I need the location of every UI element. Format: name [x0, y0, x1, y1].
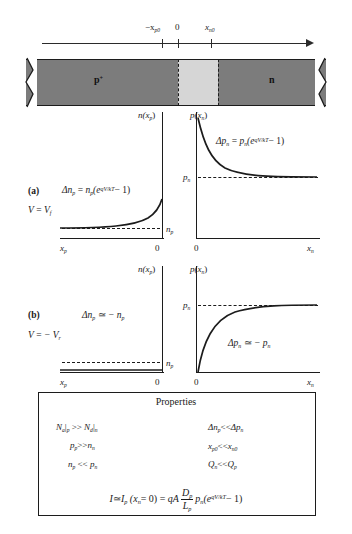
panel-a-right-level-label: pn [183, 172, 190, 183]
axis-label-xp0-text: −x [145, 22, 155, 32]
panel-b-left-eq-lhs: Δn [82, 310, 92, 320]
axis-label-xp0-sub: p0 [155, 27, 161, 33]
panel-b-left-x-label-sub: p [64, 382, 67, 388]
axis-label-xn0: xn0 [205, 22, 215, 33]
current-eq-frac-den: Lp [181, 500, 193, 512]
panel-a-left-eq-end: − 1) [115, 185, 131, 195]
current-eq-exp: qV/kT [211, 493, 226, 500]
position-axis-line [42, 43, 310, 44]
panel-a-right-x-axis [196, 238, 320, 239]
panel-a-right-eq-end: − 1) [269, 136, 285, 146]
panel-b-left-level-label: np [166, 358, 173, 369]
panel-b-right-origin-label: 0 [194, 377, 199, 387]
property-left-1-b-bar-sub: n [95, 427, 98, 433]
property-right-3: Qn<<Qp [208, 459, 237, 470]
bar-outline [26, 59, 326, 106]
property-right-1-b: Δp [231, 422, 241, 432]
axis-label-xn0-sub: n0 [209, 27, 215, 33]
panel-b-bias-sub: r [59, 335, 61, 341]
panel-b-right-axis-title: p(xn) [190, 264, 207, 275]
panel-a-bias-v: V [28, 205, 34, 215]
panel-b-right-eq-rhs-sub: n [268, 343, 271, 349]
panel-b-right-axis-title-close: ) [204, 264, 207, 274]
properties-title: Properties [0, 396, 352, 407]
current-eq-arg-open: (x [130, 493, 138, 504]
property-right-3-b-sub: p [234, 464, 237, 470]
panel-a-right-x-label-sub: n [311, 248, 314, 254]
current-eq-fraction: DpLp [181, 487, 193, 512]
panel-a-left-axis-title: n(xp) [138, 110, 155, 121]
property-left-2: pp>>nn [70, 440, 95, 451]
panel-b-left-curve [60, 362, 164, 374]
current-eq-ip-sub: p [124, 498, 127, 505]
axis-tick-xp0 [162, 39, 163, 48]
panel-a-right-level-sub: n [188, 177, 191, 183]
current-eq-tail-end: − 1) [226, 493, 242, 504]
panel-a-left-level-sub: p [171, 229, 174, 235]
panel-b-left-origin-label: 0 [155, 377, 160, 387]
panel-b-left-axis-title: n(xp) [138, 264, 155, 275]
panel-a-right-eq-exp: qV/kT [254, 137, 268, 143]
panel-b-left-axis-title-text: n(x [138, 264, 150, 274]
panel-b-left-eq-rhs: − n [108, 310, 122, 320]
panel-a-left-x-label-sub: p [64, 248, 67, 254]
bar-right-jagged-edge [315, 58, 328, 107]
panel-a-bias-sub: f [50, 210, 52, 216]
panel-a-left-eq-lhs-sub: p [72, 190, 75, 196]
panel-b-bias-eq: = [36, 330, 41, 340]
panel-b-left-eq-rhs-sub: p [122, 315, 125, 321]
property-left-1: Na|p >> Nd|n [56, 422, 98, 433]
property-left-3-a-sub: p [73, 464, 76, 470]
property-right-2-b-sub: n0 [232, 446, 238, 452]
position-axis-arrow [306, 39, 314, 47]
property-right-1-b-sub: n [241, 427, 244, 433]
current-eq-equals: = [160, 493, 166, 504]
axis-label-zero: 0 [175, 22, 180, 32]
panel-b-right-eq-rel: ≃ [244, 338, 252, 348]
bar-left-jagged-edge [25, 58, 37, 107]
panel-a-left-axis-title-text: n(x [138, 110, 150, 120]
property-left-3-b-sub: n [94, 464, 97, 470]
axis-label-xp0: −xp0 [145, 22, 160, 33]
p-region-label: p+ [94, 74, 103, 85]
panel-b-right-level-label: pn [183, 300, 190, 311]
panel-b-right-eq-lhs-sub: n [238, 343, 241, 349]
panel-a-left-equation: Δnp = np(eqV/kT− 1) [62, 185, 130, 196]
panel-b-right-eq-rhs: − p [254, 338, 268, 348]
current-eq-frac-den-sub: p [188, 505, 191, 512]
panel-b-right-x-label-sub: n [311, 382, 314, 388]
panel-a-left-eq-exp: qV/kT [100, 186, 114, 192]
panel-a-left-axis-title-close: ) [152, 110, 155, 120]
panel-b-left-equation: Δnp ≃ − np [82, 309, 125, 321]
panel-a-left-eq-lhs: Δn [62, 185, 72, 195]
panel-a-bias: V = Vf [28, 205, 51, 216]
current-eq-arg-eq: = 0) [141, 493, 157, 504]
panel-a-bias-eq: = [36, 205, 41, 215]
panel-b-left-axis-title-close: ) [152, 264, 155, 274]
panel-a-right-curve [197, 118, 319, 180]
property-left-2-b-sub: n [92, 445, 95, 451]
property-right-1-a: Δn [208, 422, 218, 432]
panel-a-right-eq-lhs-sub: n [226, 141, 229, 147]
panel-a-left-level-label: np [166, 224, 173, 235]
current-eq-tail-open: (e [203, 493, 211, 504]
panel-b-left-x-label: xp [60, 377, 67, 388]
panel-a-right-eq-lhs: Δp [216, 136, 226, 146]
property-left-1-rel: >> [72, 422, 82, 432]
panel-a-right-eq-rel: = [232, 136, 237, 146]
panel-a-left-origin-label: 0 [155, 243, 160, 253]
panel-b-right-equation: Δpn ≃ − pn [228, 337, 271, 349]
property-right-1-rel: << [221, 422, 231, 432]
panel-b-left-level-sub: p [171, 363, 174, 369]
panel-a-left-eq-rel: = [78, 185, 83, 195]
current-eq-frac-num-sub: p [189, 492, 192, 499]
n-region-label: n [269, 74, 275, 85]
semiconductor-bar: p+ n [26, 59, 326, 106]
panel-b-right-level-sub: n [188, 305, 191, 311]
axis-tick-zero [178, 39, 179, 48]
property-left-1-a-bar-sub: p [67, 427, 70, 433]
pn-junction-figure: −xp0 0 xn0 p+ n n(xp) p(xn) (a) Δn [0, 0, 352, 534]
panel-b-right-x-label: xn [307, 377, 314, 388]
current-eq-frac-num: Dp [181, 487, 193, 500]
property-left-3: np << pn [68, 459, 97, 470]
